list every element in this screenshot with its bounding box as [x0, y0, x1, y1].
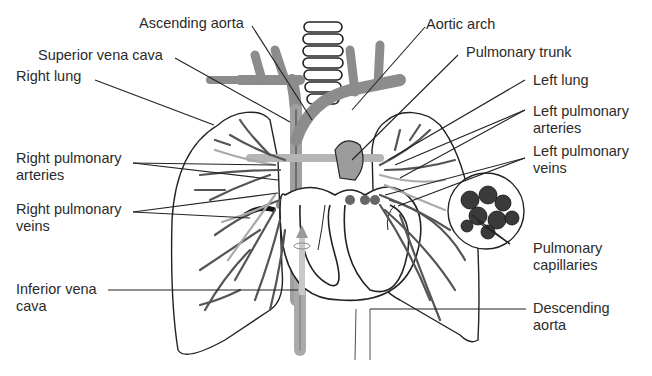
label-aortic-arch: Aortic arch	[426, 16, 495, 33]
label-left-lung: Left lung	[533, 72, 589, 89]
label-pulmonary-capillaries: Pulmonary capillaries	[533, 240, 602, 274]
label-superior-vena-cava: Superior vena cava	[38, 47, 163, 64]
right-lung	[172, 112, 283, 354]
label-line-1: Left pulmonary	[533, 143, 629, 160]
label-line-2: cava	[16, 298, 97, 315]
label-left-pulmonary-arteries: Left pulmonary arteries	[533, 103, 629, 137]
label-line-1: Descending	[533, 300, 610, 317]
label-line-1: Pulmonary	[533, 240, 602, 257]
label-line-1: Right pulmonary	[16, 201, 122, 218]
label-descending-aorta: Descending aorta	[533, 300, 610, 334]
label-line-2: aorta	[533, 317, 610, 334]
label-right-pulmonary-veins: Right pulmonary veins	[16, 201, 122, 235]
label-line-2: veins	[16, 218, 122, 235]
pulmonary-trunk	[335, 141, 363, 180]
label-line-2: capillaries	[533, 257, 602, 274]
label-line-2: arteries	[16, 167, 122, 184]
label-line-2: veins	[533, 160, 629, 177]
pulmonary-capillaries-inset	[448, 173, 524, 249]
label-line-1: Inferior vena	[16, 281, 97, 298]
label-left-pulmonary-veins: Left pulmonary veins	[533, 143, 629, 177]
right-lung-arteries-light	[215, 150, 275, 260]
label-right-pulmonary-arteries: Right pulmonary arteries	[16, 150, 122, 184]
label-inferior-vena-cava: Inferior vena cava	[16, 281, 97, 315]
label-line-2: arteries	[533, 120, 629, 137]
label-ascending-aorta: Ascending aorta	[139, 15, 244, 32]
label-line-1: Right pulmonary	[16, 150, 122, 167]
label-line-1: Left pulmonary	[533, 103, 629, 120]
label-pulmonary-trunk: Pulmonary trunk	[466, 44, 572, 61]
label-right-lung: Right lung	[16, 68, 81, 85]
